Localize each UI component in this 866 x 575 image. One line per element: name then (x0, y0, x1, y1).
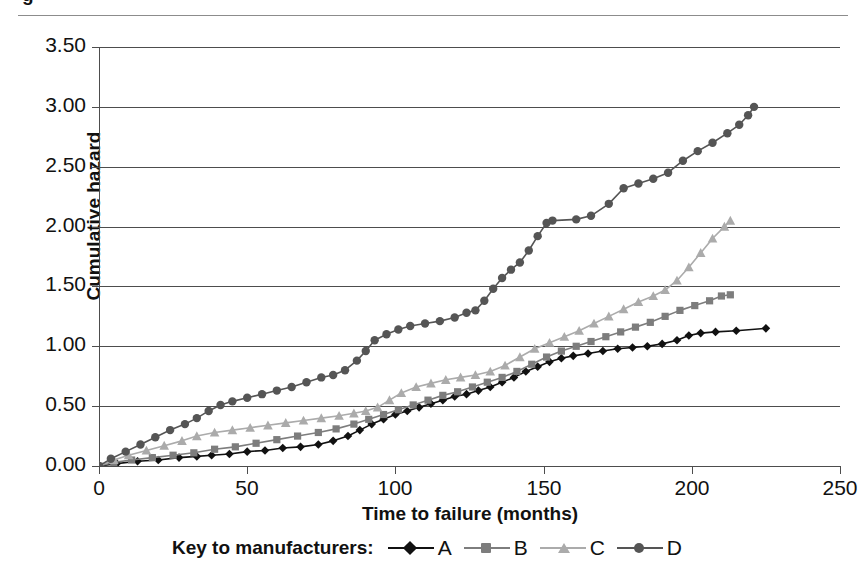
legend-marker-diamond-icon (403, 541, 417, 555)
data-point-marker (450, 313, 458, 321)
series-d (99, 103, 758, 466)
data-point-marker (382, 330, 390, 338)
series-line (99, 107, 754, 466)
legend-entry-d[interactable]: D (617, 536, 686, 560)
data-point-marker (462, 390, 471, 399)
data-point-marker (617, 328, 624, 335)
data-point-marker (341, 366, 349, 374)
data-point-marker (548, 216, 556, 224)
data-point-marker (750, 103, 758, 111)
x-tick-mark (99, 466, 100, 474)
data-point-marker (344, 432, 353, 441)
data-point-marker (762, 324, 771, 333)
cumulative-hazard-chart: Cumulative hazard 0.000.501.001.502.002.… (0, 0, 866, 575)
legend-entry-a[interactable]: A (388, 536, 456, 560)
data-point-marker (170, 452, 177, 459)
data-point-marker (573, 343, 580, 350)
data-point-marker (273, 386, 281, 394)
chart-legend: Key to manufacturers: ABCD (0, 536, 866, 560)
series-line (99, 221, 730, 466)
data-point-marker (193, 414, 201, 422)
data-point-marker (190, 449, 197, 456)
data-point-marker (258, 390, 266, 398)
data-point-marker (228, 397, 236, 405)
data-point-marker (634, 179, 642, 187)
data-point-marker (151, 433, 159, 441)
x-tick-label: 250 (800, 476, 866, 500)
legend-entry-b[interactable]: B (464, 536, 532, 560)
data-point-marker (136, 440, 144, 448)
data-point-marker (385, 395, 395, 404)
data-point-marker (708, 139, 716, 147)
data-point-marker (370, 336, 378, 344)
data-point-marker (558, 347, 565, 354)
data-point-marker (516, 258, 524, 266)
data-point-marker (643, 342, 652, 351)
data-point-marker (410, 401, 417, 408)
legend-label-c: C (590, 536, 605, 560)
y-tick-label: 1.00 (12, 332, 86, 356)
legend-label-b: B (514, 536, 528, 560)
data-point-marker (278, 444, 287, 453)
y-tick-label: 2.50 (12, 153, 86, 177)
legend-swatch-a (388, 540, 434, 556)
data-point-marker (436, 317, 444, 325)
data-point-marker (181, 420, 189, 428)
data-point-marker (572, 215, 580, 223)
data-point-marker (632, 324, 639, 331)
data-point-marker (353, 356, 361, 364)
legend-swatch-c (540, 540, 586, 556)
data-point-marker (727, 291, 734, 298)
data-point-marker (706, 297, 713, 304)
data-point-marker (513, 368, 520, 375)
data-point-marker (499, 374, 506, 381)
data-point-marker (406, 322, 414, 330)
data-point-marker (723, 129, 731, 137)
data-point-marker (634, 297, 644, 306)
data-point-marker (587, 338, 594, 345)
data-point-marker (365, 416, 372, 423)
legend-swatch-b (464, 540, 510, 556)
series-lines (99, 47, 840, 466)
y-tick-label: 0.50 (12, 392, 86, 416)
data-point-marker (602, 333, 609, 340)
x-tick-label: 200 (652, 476, 732, 500)
data-point-marker (149, 454, 156, 461)
data-point-marker (333, 425, 340, 432)
data-point-marker (726, 216, 736, 225)
data-point-marker (421, 319, 429, 327)
data-point-marker (273, 436, 280, 443)
data-point-marker (380, 411, 387, 418)
data-point-marker (498, 274, 506, 282)
data-point-marker (599, 347, 608, 356)
data-point-marker (261, 446, 270, 455)
data-point-marker (649, 174, 657, 182)
data-point-marker (735, 121, 743, 129)
data-point-marker (658, 340, 667, 349)
data-point-marker (664, 169, 672, 177)
data-point-marker (560, 332, 570, 341)
series-a (99, 324, 770, 466)
data-point-marker (317, 373, 325, 381)
x-tick-mark (395, 466, 396, 474)
data-point-marker (530, 344, 540, 353)
data-point-marker (718, 292, 725, 299)
x-tick-mark (692, 466, 693, 474)
data-point-marker (462, 309, 470, 317)
data-point-marker (500, 361, 510, 370)
y-tick-label: 3.50 (12, 33, 86, 57)
data-point-marker (485, 367, 495, 376)
data-point-marker (587, 212, 595, 220)
data-point-marker (685, 331, 694, 340)
x-tick-mark (247, 466, 248, 474)
data-point-marker (225, 450, 234, 459)
data-point-marker (515, 352, 525, 361)
legend-marker-triangle-icon (558, 543, 570, 553)
data-point-marker (302, 378, 310, 386)
data-point-marker (604, 312, 614, 321)
y-tick-label: 3.00 (12, 93, 86, 117)
legend-entry-c[interactable]: C (540, 536, 609, 560)
data-point-marker (314, 440, 323, 449)
data-point-marker (329, 437, 338, 446)
data-point-marker (694, 147, 702, 155)
